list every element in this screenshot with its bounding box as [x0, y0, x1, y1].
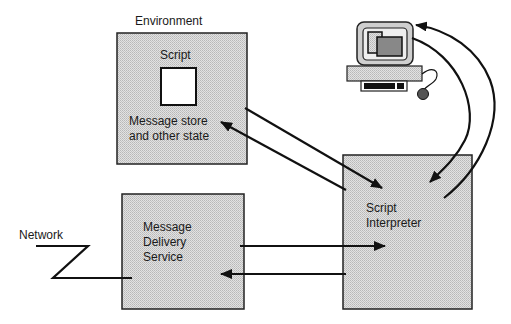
message-delivery-label: Message Delivery Service	[143, 220, 192, 265]
network-link	[36, 246, 132, 278]
script-square	[161, 68, 196, 105]
script-interpreter-label: Script Interpreter	[366, 201, 421, 231]
environment-title: Environment	[135, 14, 202, 29]
mouse-icon	[418, 89, 429, 100]
architecture-diagram	[0, 0, 511, 324]
arrow-environment-to-interpreter	[245, 108, 382, 188]
message-store-label: Message store and other state	[129, 114, 209, 144]
script-interpreter-box	[343, 155, 472, 309]
network-label: Network	[19, 228, 63, 243]
script-label: Script	[160, 48, 191, 63]
computer-icon	[347, 22, 437, 100]
